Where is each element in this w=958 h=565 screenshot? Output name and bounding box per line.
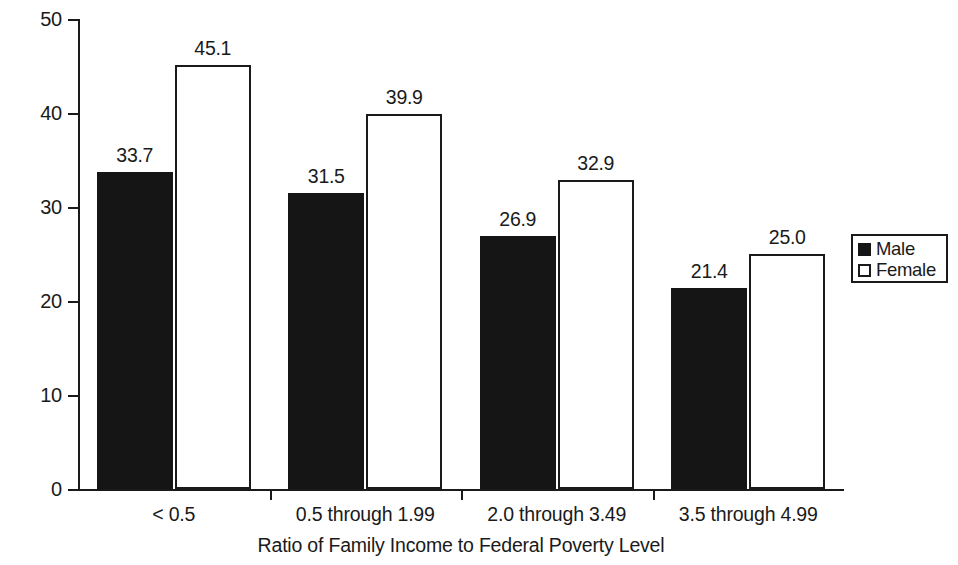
y-axis-tick-label: 30 xyxy=(0,197,62,217)
bar-value-label: 26.9 xyxy=(468,210,568,230)
bar-female xyxy=(749,254,825,489)
chart-legend: Male Female xyxy=(851,234,948,283)
legend-item-female: Female xyxy=(858,260,946,281)
legend-swatch-male-icon xyxy=(858,243,871,256)
bar-value-label: 21.4 xyxy=(659,262,759,282)
x-axis-category-label: 3.5 through 4.99 xyxy=(653,503,845,525)
y-axis-tick-label: 0 xyxy=(0,479,62,499)
bar-value-label: 33.7 xyxy=(85,146,185,166)
y-axis-tick-mark xyxy=(68,113,79,115)
bar-female xyxy=(366,114,442,489)
y-axis-tick-label: 50 xyxy=(0,9,62,29)
y-axis-tick-mark xyxy=(68,395,79,397)
bar-male xyxy=(288,193,364,489)
x-axis-tick-mark xyxy=(461,491,463,500)
y-axis-tick-mark xyxy=(68,19,79,21)
y-axis-tick-mark xyxy=(68,207,79,209)
bar-male xyxy=(97,172,173,489)
y-axis-tick-label: 20 xyxy=(0,291,62,311)
x-axis-category-label: 2.0 through 3.49 xyxy=(461,503,653,525)
bar-female xyxy=(558,180,634,489)
legend-label-female: Female xyxy=(876,261,936,280)
x-axis-tick-mark xyxy=(270,491,272,500)
legend-swatch-female-icon xyxy=(858,264,871,277)
x-axis-title: Ratio of Family Income to Federal Povert… xyxy=(78,534,844,557)
x-axis-category-label: 0.5 through 1.99 xyxy=(270,503,462,525)
legend-label-male: Male xyxy=(876,240,915,259)
bar-value-label: 25.0 xyxy=(737,228,837,248)
legend-item-male: Male xyxy=(858,239,946,260)
x-axis-category-label: < 0.5 xyxy=(78,503,270,525)
bar-male xyxy=(480,236,556,489)
bar-chart-figure: Total Pecentage Poor Mental Health 01020… xyxy=(0,0,958,565)
bar-value-label: 39.9 xyxy=(354,88,454,108)
bar-value-label: 31.5 xyxy=(276,167,376,187)
y-axis-line xyxy=(78,19,80,490)
bar-male xyxy=(671,288,747,489)
bar-female xyxy=(175,65,251,489)
y-axis-tick-label: 40 xyxy=(0,103,62,123)
bar-value-label: 45.1 xyxy=(163,39,263,59)
x-axis-tick-mark xyxy=(653,491,655,500)
y-axis-tick-label: 10 xyxy=(0,385,62,405)
y-axis-tick-mark xyxy=(68,301,79,303)
bar-value-label: 32.9 xyxy=(546,154,646,174)
